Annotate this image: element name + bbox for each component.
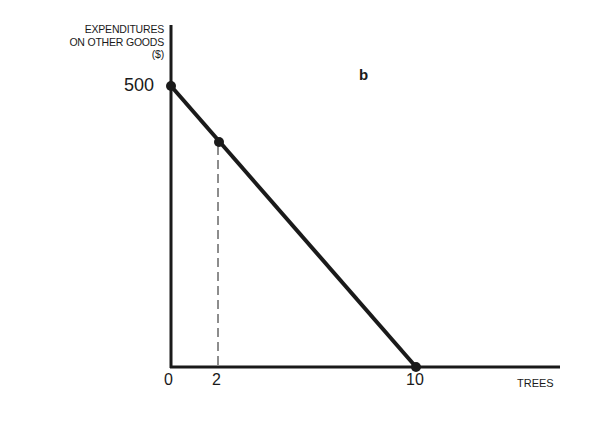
point-2-400: [214, 137, 224, 147]
y-label-line-1: EXPENDITURES: [69, 23, 164, 36]
budget-line: [171, 86, 416, 367]
x-tick-0: 0: [164, 371, 173, 389]
y-tick-500: 500: [124, 75, 154, 96]
x-axis-label: TREES: [517, 377, 554, 389]
point-0-500: [166, 81, 176, 91]
y-label-line-2: ON OTHER GOODS: [69, 36, 164, 49]
y-axis-label: EXPENDITURES ON OTHER GOODS ($): [69, 23, 164, 61]
y-label-line-3: ($): [69, 48, 164, 61]
x-tick-2: 2: [212, 371, 221, 389]
panel-label: b: [359, 66, 368, 83]
x-tick-10: 10: [406, 371, 424, 389]
chart-canvas: [0, 0, 594, 421]
